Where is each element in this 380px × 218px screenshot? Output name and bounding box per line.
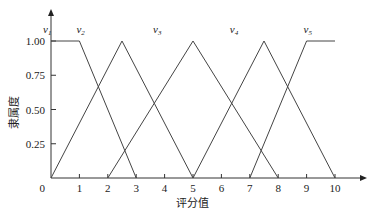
series-line-v1	[51, 41, 136, 178]
series-line-v5	[250, 41, 335, 178]
x-tick-label: 2	[105, 182, 111, 194]
y-tick-label: 1.00	[26, 35, 46, 47]
x-tick-label: 5	[190, 182, 196, 194]
series-label-v1: v1	[43, 23, 51, 37]
x-tick-label: 1	[77, 182, 83, 194]
membership-function-chart: 012345678910 0.250.500.751.00 v1v2v3v4v5…	[0, 0, 380, 218]
series-labels: v1v2v3v4v5	[43, 23, 312, 37]
series-label-v3: v3	[153, 23, 162, 37]
x-tick-label: 6	[219, 182, 225, 194]
series-label-v4: v4	[230, 23, 239, 37]
x-tick-label: 4	[162, 182, 168, 194]
x-axis-arrow-icon	[360, 175, 367, 181]
x-tick-label: 9	[304, 182, 310, 194]
y-tick-label: 0.75	[26, 69, 46, 81]
series-label-v2: v2	[76, 23, 85, 37]
x-tick-label: 7	[247, 182, 253, 194]
series-line-v4	[193, 41, 335, 178]
x-tick-label: 8	[275, 182, 281, 194]
x-tick-label: 10	[330, 182, 342, 194]
axes	[48, 9, 367, 181]
x-tick-label: 3	[133, 182, 139, 194]
y-axis-label: 隶属度	[7, 96, 21, 129]
y-axis-arrow-icon	[48, 9, 54, 16]
series-label-v5: v5	[304, 23, 313, 37]
series-line-v2	[51, 41, 193, 178]
series-lines	[51, 41, 335, 178]
x-ticks: 012345678910	[40, 174, 342, 194]
y-tick-label: 0.50	[26, 104, 46, 116]
y-tick-label: 0.25	[26, 138, 46, 150]
x-tick-label: 0	[40, 182, 46, 194]
x-axis-label: 评分值	[176, 197, 209, 210]
series-line-v3	[108, 41, 278, 178]
